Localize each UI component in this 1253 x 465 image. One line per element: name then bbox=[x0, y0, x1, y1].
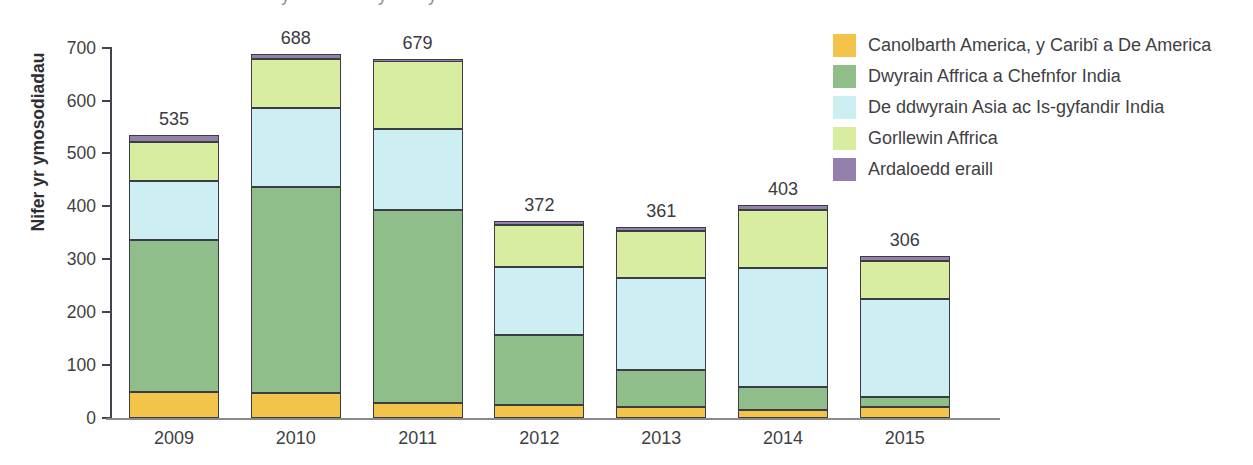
bar-segment-2010 bbox=[251, 187, 341, 392]
bar-segment-2011 bbox=[373, 59, 463, 62]
y-tick-label: 300 bbox=[30, 249, 96, 269]
bar-segment-2010 bbox=[251, 54, 341, 59]
bar-segment-2015 bbox=[860, 407, 950, 418]
bar-segment-2010 bbox=[251, 59, 341, 109]
bar-segment-2015 bbox=[860, 397, 950, 408]
x-axis-line bbox=[106, 418, 1000, 420]
x-tick-label: 2010 bbox=[236, 428, 356, 449]
bar-segment-2009 bbox=[129, 392, 219, 418]
x-tick-label: 2015 bbox=[845, 428, 965, 449]
legend-item: Ardaloedd eraill bbox=[833, 158, 1211, 181]
bar-segment-2009 bbox=[129, 135, 219, 142]
bar-segment-2014 bbox=[738, 268, 828, 387]
bar-segment-2011 bbox=[373, 129, 463, 209]
legend-label: Ardaloedd eraill bbox=[868, 158, 993, 181]
x-tick-label: 2013 bbox=[601, 428, 721, 449]
bar-segment-2014 bbox=[738, 210, 828, 268]
legend-swatch bbox=[833, 65, 856, 88]
cropped-letter-descender: y bbox=[378, 0, 387, 6]
y-tick-mark bbox=[102, 47, 110, 49]
y-tick-label: 600 bbox=[30, 91, 96, 111]
bar-segment-2012 bbox=[494, 335, 584, 405]
cropped-title-fragments: y y y bbox=[0, 0, 700, 8]
bar-segment-2014 bbox=[738, 205, 828, 210]
bar-segment-2015 bbox=[860, 299, 950, 396]
bar-segment-2012 bbox=[494, 267, 584, 335]
legend-swatch bbox=[833, 96, 856, 119]
y-tick-mark bbox=[102, 100, 110, 102]
bar-segment-2012 bbox=[494, 221, 584, 225]
bar-segment-2015 bbox=[860, 261, 950, 299]
bar-segment-2013 bbox=[616, 231, 706, 278]
y-tick-mark bbox=[102, 364, 110, 366]
bar-segment-2009 bbox=[129, 142, 219, 182]
legend-swatch bbox=[833, 127, 856, 150]
y-tick-label: 200 bbox=[30, 302, 96, 322]
bar-segment-2012 bbox=[494, 405, 584, 418]
y-tick-label: 500 bbox=[30, 143, 96, 163]
legend-swatch bbox=[833, 158, 856, 181]
bar-segment-2009 bbox=[129, 240, 219, 391]
bar-segment-2013 bbox=[616, 278, 706, 370]
y-tick-label: 400 bbox=[30, 196, 96, 216]
legend-label: Canolbarth America, y Caribî a De Americ… bbox=[868, 34, 1211, 57]
bar-total-label: 403 bbox=[738, 179, 828, 200]
legend-label: Dwyrain Affrica a Chefnfor India bbox=[868, 65, 1121, 88]
legend-swatch bbox=[833, 34, 856, 57]
legend: Canolbarth America, y Caribî a De Americ… bbox=[833, 34, 1211, 181]
bar-total-label: 688 bbox=[251, 28, 341, 49]
legend-item: Gorllewin Affrica bbox=[833, 127, 1211, 150]
y-tick-label: 700 bbox=[30, 38, 96, 58]
cropped-letter-descender: y bbox=[281, 0, 290, 6]
bar-segment-2011 bbox=[373, 61, 463, 129]
x-tick-label: 2009 bbox=[114, 428, 234, 449]
bar-total-label: 679 bbox=[373, 33, 463, 54]
bar-segment-2015 bbox=[860, 256, 950, 261]
bar-segment-2012 bbox=[494, 225, 584, 267]
bar-segment-2011 bbox=[373, 210, 463, 404]
y-tick-mark bbox=[102, 152, 110, 154]
y-tick-mark bbox=[102, 258, 110, 260]
y-tick-mark bbox=[102, 311, 110, 313]
x-tick-label: 2014 bbox=[723, 428, 843, 449]
y-tick-mark bbox=[102, 205, 110, 207]
bar-segment-2013 bbox=[616, 227, 706, 231]
cropped-letter-descender: y bbox=[428, 0, 437, 6]
bar-total-label: 306 bbox=[860, 230, 950, 251]
bar-segment-2010 bbox=[251, 393, 341, 418]
bar-segment-2014 bbox=[738, 410, 828, 418]
y-tick-label: 0 bbox=[30, 408, 96, 428]
legend-item: Dwyrain Affrica a Chefnfor India bbox=[833, 65, 1211, 88]
bar-total-label: 535 bbox=[129, 109, 219, 130]
legend-item: De ddwyrain Asia ac Is-gyfandir India bbox=[833, 96, 1211, 119]
bar-segment-2013 bbox=[616, 407, 706, 418]
bar-segment-2014 bbox=[738, 387, 828, 410]
legend-item: Canolbarth America, y Caribî a De Americ… bbox=[833, 34, 1211, 57]
bar-segment-2011 bbox=[373, 403, 463, 418]
bar-total-label: 361 bbox=[616, 201, 706, 222]
y-axis-line bbox=[110, 47, 112, 419]
bar-segment-2009 bbox=[129, 181, 219, 240]
bar-segment-2010 bbox=[251, 108, 341, 187]
legend-label: Gorllewin Affrica bbox=[868, 127, 998, 150]
bar-segment-2013 bbox=[616, 370, 706, 407]
x-tick-label: 2012 bbox=[479, 428, 599, 449]
y-tick-label: 100 bbox=[30, 355, 96, 375]
x-tick-label: 2011 bbox=[358, 428, 478, 449]
stacked-bar-chart: y y y Nifer yr ymosodiadau 0100200300400… bbox=[0, 0, 1253, 465]
bar-total-label: 372 bbox=[494, 195, 584, 216]
legend-label: De ddwyrain Asia ac Is-gyfandir India bbox=[868, 96, 1164, 119]
